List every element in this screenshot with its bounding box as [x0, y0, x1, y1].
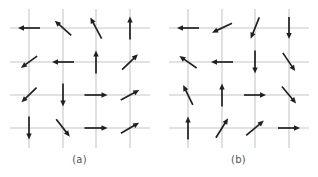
lattice-diagram-a [0, 0, 159, 152]
arrow-head [294, 125, 300, 130]
arrow-head [219, 84, 224, 90]
arrow-head [177, 25, 183, 30]
arrow-head [26, 134, 31, 140]
arrow-head [260, 92, 266, 97]
arrow-shaft [56, 119, 67, 133]
arrow-head [102, 125, 108, 130]
arrow-head [102, 92, 108, 97]
arrow-shaft [252, 17, 259, 34]
spin-arrows [177, 17, 300, 140]
arrow-shaft [92, 21, 101, 38]
panel-b-caption: (b) [159, 154, 318, 166]
spin-arrows [18, 17, 139, 140]
arrow-shaft [283, 53, 293, 68]
arrow-shaft [58, 23, 71, 35]
arrow-shaft [216, 23, 232, 31]
arrow-shaft [282, 87, 293, 101]
arrow-shaft [183, 58, 197, 68]
panel-b: (b) [159, 0, 318, 177]
arrow-head [18, 25, 24, 30]
arrow-shaft [121, 125, 136, 133]
arrow-shaft [24, 88, 36, 100]
arrow-head [211, 59, 217, 64]
arrow-shaft [121, 92, 136, 100]
arrow-head [60, 101, 65, 107]
arrow-shaft [246, 123, 260, 135]
arrow-head [93, 51, 98, 57]
arrow-head [52, 59, 58, 64]
arrow-head [185, 117, 190, 123]
arrow-shaft [216, 122, 226, 138]
arrow-head [286, 33, 291, 39]
grid-lines [10, 9, 150, 148]
arrow-head [252, 68, 257, 74]
panel-a-caption: (a) [0, 154, 159, 166]
arrow-head [127, 17, 132, 23]
lattice-diagram-b [159, 0, 318, 152]
spin-lattice-figure: (a) (b) [0, 0, 318, 177]
panel-a: (a) [0, 0, 159, 177]
arrow-shaft [122, 57, 135, 69]
arrow-shaft [24, 56, 37, 65]
arrow-shaft [185, 89, 193, 105]
